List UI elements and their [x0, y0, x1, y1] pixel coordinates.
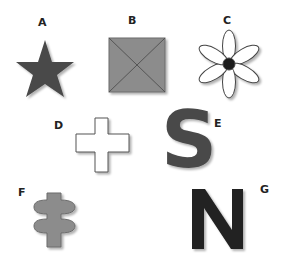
item-b: B [109, 14, 165, 92]
label-e: E [214, 117, 222, 130]
label-c: C [223, 14, 231, 27]
item-a: A [16, 16, 74, 97]
star-icon [16, 40, 74, 97]
label-f: F [18, 186, 26, 199]
label-d: D [54, 119, 63, 132]
double-disc-pillar-icon [34, 193, 75, 247]
label-a: A [38, 16, 47, 29]
flower-center [223, 58, 235, 70]
item-g: G [192, 183, 269, 249]
item-c: C [196, 14, 261, 98]
label-b: B [128, 14, 136, 27]
flower-icon [196, 30, 261, 98]
item-d: D [54, 118, 129, 172]
shapes-figure: A B C D S E [0, 0, 285, 265]
square-with-diagonals-icon [109, 38, 165, 92]
item-f: F [18, 186, 75, 247]
cross-icon [76, 118, 129, 172]
label-g: G [260, 183, 269, 196]
letter-n-icon [192, 189, 243, 249]
item-e: S E [161, 95, 222, 185]
letter-s-icon: S [161, 95, 217, 185]
